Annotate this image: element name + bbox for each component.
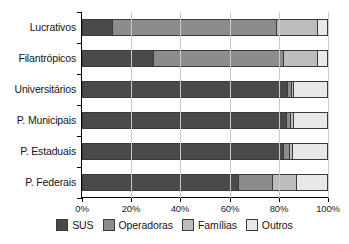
stacked-bar-chart: 0%20%40%60%80%100% LucrativosFilantrópic… [0, 0, 349, 244]
bar-row [82, 19, 328, 36]
legend-item-outros[interactable]: Outros [246, 219, 293, 231]
gridline [131, 12, 132, 198]
bar-segment-sus [82, 112, 286, 129]
x-tick-label: 20% [111, 203, 151, 214]
legend-item-famílias[interactable]: Famílias [182, 219, 237, 231]
gridline [328, 12, 329, 198]
bar-segment-outros [317, 19, 328, 36]
legend-swatch-icon [246, 219, 258, 231]
legend-swatch-icon [182, 219, 194, 231]
x-tick-label: 60% [210, 203, 250, 214]
x-tick-mark [82, 198, 83, 202]
chart-legend: SUSOperadorasFamíliasOutros [0, 219, 349, 231]
bar-row [82, 81, 328, 98]
x-tick-mark [328, 198, 329, 202]
bar-segment-sus [82, 19, 112, 36]
y-tick-mark [77, 105, 82, 106]
y-tick-mark [77, 12, 82, 13]
gridline [180, 12, 181, 198]
bar-segment-operadoras [112, 19, 276, 36]
bar-segment-outros [292, 143, 328, 160]
bar-segment-famílias [276, 19, 317, 36]
y-tick-mark [77, 43, 82, 44]
legend-label: Famílias [198, 219, 237, 231]
y-tick-mark [77, 198, 82, 199]
x-tick-label: 100% [308, 203, 348, 214]
bar-row [82, 174, 328, 191]
plot-area [82, 12, 328, 198]
x-tick-mark [180, 198, 181, 202]
legend-label: Outros [262, 219, 293, 231]
y-tick-mark [77, 74, 82, 75]
bar-segment-outros [317, 50, 328, 67]
category-label-2: Filantrópicos [0, 52, 76, 64]
bar-row [82, 143, 328, 160]
bar-row [82, 50, 328, 67]
gridline [230, 12, 231, 198]
bar-segment-sus [82, 50, 153, 67]
category-label-1: Lucrativos [0, 21, 76, 33]
bar-segment-famílias [272, 174, 296, 191]
category-label-4: P. Municipais [0, 114, 76, 126]
legend-label: Operadoras [119, 219, 173, 231]
bar-segment-operadoras [238, 174, 272, 191]
bar-segment-operadoras [153, 50, 283, 67]
bar-segment-sus [82, 174, 238, 191]
category-label-3: Universitários [0, 83, 76, 95]
legend-item-sus[interactable]: SUS [56, 219, 93, 231]
bar-row [82, 112, 328, 129]
x-tick-label: 80% [259, 203, 299, 214]
y-tick-mark [77, 136, 82, 137]
x-tick-mark [279, 198, 280, 202]
bar-segment-outros [296, 174, 328, 191]
x-tick-label: 40% [160, 203, 200, 214]
bar-segment-sus [82, 81, 287, 98]
bar-segment-famílias [283, 50, 317, 67]
category-label-6: P. Federais [0, 176, 76, 188]
bar-segment-outros [293, 112, 328, 129]
bar-segment-outros [293, 81, 328, 98]
bar-segment-sus [82, 143, 283, 160]
y-tick-mark [77, 167, 82, 168]
category-label-5: P. Estaduais [0, 145, 76, 157]
legend-item-operadoras[interactable]: Operadoras [103, 219, 173, 231]
x-tick-label: 0% [62, 203, 102, 214]
legend-swatch-icon [103, 219, 115, 231]
x-tick-mark [230, 198, 231, 202]
legend-swatch-icon [56, 219, 68, 231]
x-tick-mark [131, 198, 132, 202]
legend-label: SUS [72, 219, 93, 231]
gridline [279, 12, 280, 198]
